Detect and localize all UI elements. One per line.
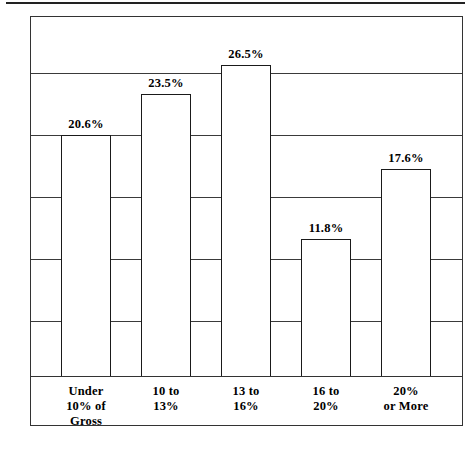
bar-chart-figure: 20.6% 23.5% 26.5% 11.8% 17.6% Under 10% …	[0, 0, 470, 453]
chart-frame: 20.6% 23.5% 26.5% 11.8% 17.6% Under 10% …	[30, 16, 463, 426]
category-label-13-to-16: 13 to 16%	[201, 384, 291, 414]
category-label-10-to-13: 10 to 13%	[121, 384, 211, 414]
category-label-line: or More	[361, 399, 451, 414]
bar-value-under-10-of-gross: 20.6%	[51, 117, 121, 131]
plot-area: 20.6% 23.5% 26.5% 11.8% 17.6%	[31, 17, 462, 376]
bar-under-10-of-gross[interactable]	[61, 135, 111, 376]
category-label-line: 13 to	[201, 384, 291, 399]
bar-16-to-20[interactable]	[301, 239, 351, 376]
category-label-line: 10 to	[121, 384, 211, 399]
category-label-line: Under	[41, 384, 131, 399]
category-label-line: 20%	[361, 384, 451, 399]
bar-value-13-to-16: 26.5%	[211, 47, 281, 61]
category-axis-line	[31, 376, 462, 377]
category-label-line: 13%	[121, 399, 211, 414]
category-label-16-to-20: 16 to 20%	[281, 384, 371, 414]
bar-13-to-16[interactable]	[221, 65, 271, 376]
bar-value-20-or-more: 17.6%	[371, 151, 441, 165]
category-label-line: 10% of	[41, 399, 131, 414]
bar-20-or-more[interactable]	[381, 169, 431, 376]
category-label-line: 16%	[201, 399, 291, 414]
category-label-under-10-of-gross: Under 10% of Gross	[41, 384, 131, 429]
category-label-line: Gross	[41, 414, 131, 429]
bar-value-10-to-13: 23.5%	[131, 76, 201, 90]
category-label-line: 16 to	[281, 384, 371, 399]
category-label-line: 20%	[281, 399, 371, 414]
bar-10-to-13[interactable]	[141, 94, 191, 376]
top-horizontal-rule	[6, 2, 465, 4]
bar-value-16-to-20: 11.8%	[291, 221, 361, 235]
category-label-20-or-more: 20% or More	[361, 384, 451, 414]
